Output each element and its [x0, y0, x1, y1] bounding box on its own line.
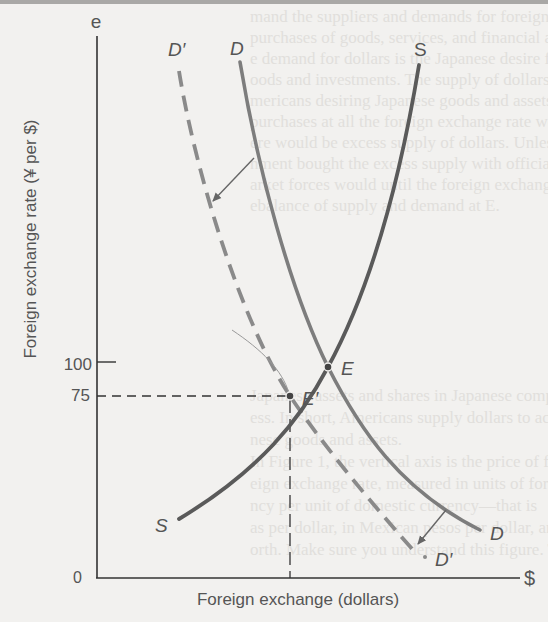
- y-axis-label: Foreign exchange rate (¥ per $): [21, 119, 40, 358]
- shift-arrow-top: [213, 158, 254, 201]
- origin-label: 0: [73, 569, 82, 586]
- label-D-prime-bottom: D′: [435, 549, 454, 570]
- label-E-prime: E′: [302, 388, 320, 409]
- label-S-top: S: [414, 39, 427, 60]
- label-D-top: D: [230, 38, 244, 59]
- x-axis-label: Foreign exchange (dollars): [197, 590, 399, 609]
- equilibrium-point-E-prime: [286, 392, 294, 400]
- equilibrium-point-E: [324, 363, 332, 371]
- shift-arrow-bottom: [418, 510, 446, 544]
- supply-demand-diagram: e $ 0 100 75 Foreign exchange (dollars) …: [0, 0, 548, 622]
- y-axis-symbol: e: [91, 11, 102, 32]
- label-E: E: [341, 358, 354, 379]
- d-prime-end-dot: [423, 555, 427, 559]
- y-tick-label-100: 100: [64, 355, 92, 374]
- textbook-page: mand the suppliers and demands for forei…: [0, 0, 548, 622]
- label-S-bottom: S: [155, 515, 168, 536]
- axes: [96, 36, 520, 578]
- label-D-bottom: D: [490, 523, 504, 544]
- y-tick-label-75: 75: [71, 386, 90, 405]
- label-D-prime-top: D′: [168, 39, 187, 60]
- new-demand-curve-D-prime: [179, 71, 413, 550]
- x-axis-symbol: $: [524, 567, 535, 589]
